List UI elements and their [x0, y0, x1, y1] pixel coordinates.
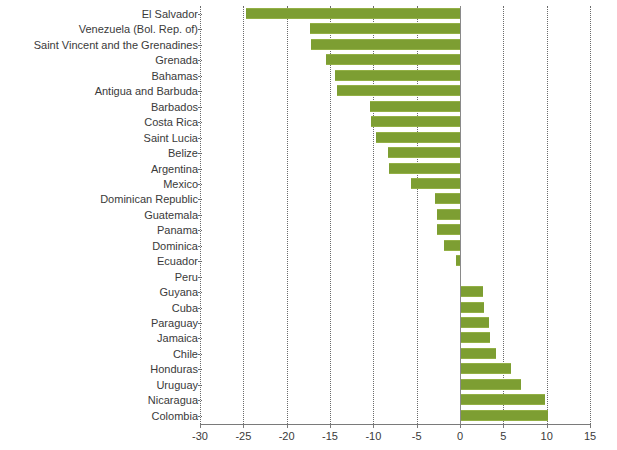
category-label: Jamaica	[157, 330, 198, 346]
bar-row	[200, 161, 590, 177]
bar-row	[200, 408, 590, 424]
bar-row	[200, 253, 590, 269]
bar	[435, 193, 460, 204]
bar	[411, 178, 460, 189]
category-label: Dominica	[152, 238, 198, 254]
x-tick-15	[590, 424, 591, 428]
category-label: Venezuela (Bol. Rep. of)	[79, 21, 198, 37]
category-label: Mexico	[163, 176, 198, 192]
bar-row	[200, 130, 590, 146]
category-label: Uruguay	[156, 377, 198, 393]
bar-row	[200, 269, 590, 285]
category-label: Honduras	[150, 361, 198, 377]
category-label: Argentina	[151, 161, 198, 177]
bar-row	[200, 377, 590, 393]
category-tick	[198, 29, 202, 30]
category-tick	[198, 385, 202, 386]
x-tick--15	[330, 424, 331, 428]
bar	[460, 410, 548, 421]
category-label: Panama	[157, 222, 198, 238]
x-tick-label: -30	[192, 430, 208, 442]
gridline-15	[590, 6, 591, 424]
x-tick-10	[547, 424, 548, 428]
x-tick-label: -25	[235, 430, 251, 442]
category-label: Paraguay	[151, 315, 198, 331]
category-tick	[198, 323, 202, 324]
bar-row	[200, 176, 590, 192]
category-tick	[198, 138, 202, 139]
bar	[388, 147, 460, 158]
bar	[460, 348, 496, 359]
bar	[311, 39, 460, 50]
bar-row	[200, 68, 590, 84]
bar-row	[200, 330, 590, 346]
bar	[371, 116, 460, 127]
category-label: Chile	[173, 346, 198, 362]
x-tick-label: 5	[500, 430, 506, 442]
x-tick--10	[373, 424, 374, 428]
category-label: Peru	[175, 269, 198, 285]
bar-row	[200, 145, 590, 161]
category-tick	[198, 292, 202, 293]
bar	[337, 85, 460, 96]
x-axis-line	[200, 424, 591, 425]
bar	[370, 101, 460, 112]
category-tick	[198, 199, 202, 200]
bar-row	[200, 284, 590, 300]
category-tick	[198, 277, 202, 278]
category-label: El Salvador	[142, 6, 198, 22]
x-tick--30	[200, 424, 201, 428]
bar	[460, 317, 489, 328]
bar-row	[200, 83, 590, 99]
category-tick	[198, 107, 202, 108]
bar-row	[200, 52, 590, 68]
category-tick	[198, 76, 202, 77]
x-tick-label: 15	[584, 430, 596, 442]
category-tick	[198, 153, 202, 154]
bar	[246, 8, 460, 19]
category-tick	[198, 45, 202, 46]
bar	[389, 163, 460, 174]
category-label: Bahamas	[152, 68, 198, 84]
x-tick--25	[243, 424, 244, 428]
bar	[460, 394, 545, 405]
category-tick	[198, 60, 202, 61]
category-label: Dominican Republic	[100, 191, 198, 207]
bar	[437, 224, 460, 235]
bar	[326, 54, 460, 65]
category-tick	[198, 14, 202, 15]
bar-row	[200, 315, 590, 331]
bar	[460, 302, 484, 313]
category-label: Antigua and Barbuda	[95, 83, 198, 99]
category-tick	[198, 416, 202, 417]
category-label: Colombia	[152, 408, 198, 424]
bar-row	[200, 222, 590, 238]
category-label: Grenada	[155, 52, 198, 68]
category-tick	[198, 338, 202, 339]
bar	[460, 379, 521, 390]
category-label: Guatemala	[144, 207, 198, 223]
bar-row	[200, 191, 590, 207]
horizontal-bar-chart: El SalvadorVenezuela (Bol. Rep. of)Saint…	[0, 0, 617, 450]
bar	[335, 70, 460, 81]
bar-row	[200, 361, 590, 377]
x-tick-label: 0	[457, 430, 463, 442]
bar	[437, 209, 460, 220]
x-tick-label: -15	[322, 430, 338, 442]
category-label: Belize	[168, 145, 198, 161]
bar-row	[200, 346, 590, 362]
bar-row	[200, 99, 590, 115]
bar-row	[200, 207, 590, 223]
category-tick	[198, 169, 202, 170]
category-tick	[198, 261, 202, 262]
bar	[376, 132, 460, 143]
bar	[460, 286, 483, 297]
bar	[444, 240, 460, 251]
bar-row	[200, 238, 590, 254]
category-tick	[198, 308, 202, 309]
category-label: Barbados	[151, 99, 198, 115]
bar	[310, 23, 460, 34]
category-tick	[198, 91, 202, 92]
category-tick	[198, 230, 202, 231]
category-label: Ecuador	[157, 253, 198, 269]
